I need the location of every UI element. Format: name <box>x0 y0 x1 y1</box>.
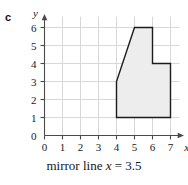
y-tick-label: 6 <box>31 22 37 34</box>
y-tick-label: 4 <box>31 58 37 70</box>
caption-suffix: = 3.5 <box>111 158 141 173</box>
x-tick-label: 5 <box>132 141 138 153</box>
x-tick-label: 6 <box>150 141 156 153</box>
caption-mirror-line: mirror line x = 3.5 <box>0 159 188 172</box>
shaded-polygon <box>117 28 171 118</box>
figure-container: c 012345670123456 xy mirror line x = 3.5 <box>0 0 188 185</box>
x-tick-label: 7 <box>168 141 174 153</box>
y-tick-label: 1 <box>31 112 37 124</box>
x-tick-label: 2 <box>78 141 84 153</box>
x-tick-label: 4 <box>114 141 120 153</box>
y-axis-label: y <box>32 7 38 19</box>
shapes-group <box>117 28 171 118</box>
y-tick-label: 5 <box>31 40 37 52</box>
x-tick-label: 1 <box>60 141 66 153</box>
y-tick-label: 3 <box>31 76 37 88</box>
y-tick-label: 0 <box>31 130 37 142</box>
x-tick-label: 3 <box>96 141 102 153</box>
caption-prefix: mirror line <box>46 158 105 173</box>
y-tick-label: 2 <box>31 94 37 106</box>
x-axis-arrowhead <box>178 133 184 139</box>
x-axis-label: x <box>183 141 188 153</box>
y-axis-arrowhead <box>42 14 48 20</box>
x-tick-label: 0 <box>42 141 48 153</box>
